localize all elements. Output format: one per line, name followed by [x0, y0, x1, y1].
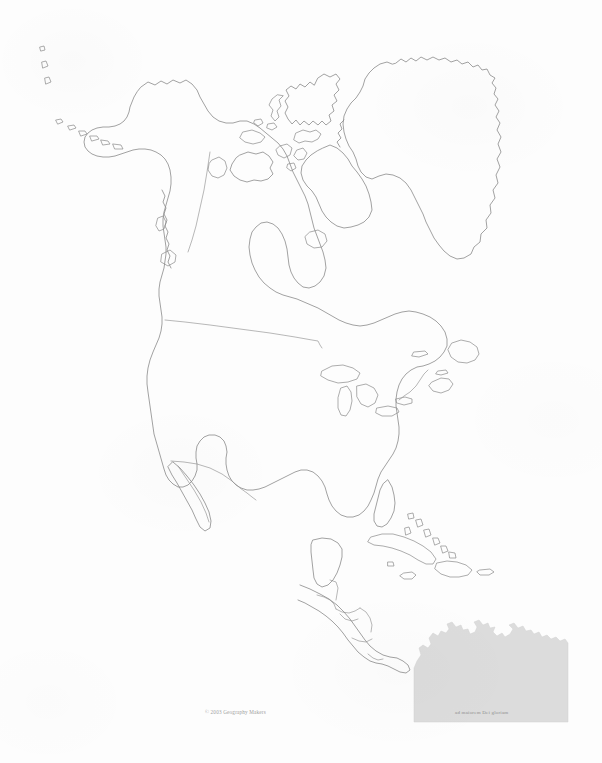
- aleutian-islet-6: [113, 144, 123, 149]
- hispaniola-outline: [435, 561, 472, 577]
- bahamas-islet-4: [424, 529, 431, 537]
- cuba-outline: [368, 534, 436, 564]
- lake-ontario-outline: [396, 397, 412, 405]
- florida-peninsula-outline: [374, 480, 395, 527]
- guatemala-belize-border: [330, 580, 338, 600]
- greenland-outline: [343, 57, 501, 259]
- nicaragua-costa-rica-border: [352, 638, 372, 642]
- aleutian-islet-5: [101, 140, 110, 145]
- aleutian-islands-group: [40, 46, 123, 149]
- north-america-map: [0, 0, 602, 763]
- aleutian-islet-9: [45, 77, 51, 84]
- us-canada-border-west: [165, 320, 322, 348]
- haida-gwaii-outline: [156, 216, 166, 231]
- victoria-island-outline: [230, 152, 273, 182]
- baja-california-outline: [168, 462, 211, 531]
- bahamas-islet-6: [441, 546, 448, 553]
- bahamas-islet-7: [449, 552, 456, 558]
- jamaica-outline: [400, 572, 416, 579]
- lake-michigan-outline: [338, 386, 352, 416]
- banks-island-outline: [208, 157, 227, 178]
- somerset-island-outline: [294, 148, 307, 160]
- guatemala-honduras-border: [336, 608, 360, 613]
- bahamas-islet-5: [433, 538, 440, 545]
- devon-island-outline: [294, 130, 321, 143]
- prince-edward-island-outline: [436, 370, 448, 375]
- south-america-shaded-region: [414, 620, 568, 722]
- aleutian-islet-3: [79, 131, 87, 136]
- bahamas-islet-1: [408, 513, 414, 519]
- melville-island-outline: [240, 130, 265, 144]
- aleutian-islet-2: [68, 125, 76, 130]
- aleutian-islet-7: [40, 46, 45, 51]
- aleutian-islet-1: [56, 119, 63, 124]
- us-canada-border-alaska: [188, 152, 210, 252]
- anticosti-island-outline: [412, 351, 428, 357]
- puerto-rico-outline: [477, 569, 494, 575]
- yucatan-peninsula-outline: [311, 538, 342, 587]
- honduras-nicaragua-border: [360, 608, 372, 632]
- us-mexico-border: [171, 461, 256, 500]
- baffin-island-outline: [301, 145, 372, 228]
- axel-heiberg-island-outline: [269, 95, 283, 121]
- arctic-islet-1: [267, 123, 277, 130]
- great-lakes-group: [321, 365, 412, 416]
- lake-superior-outline: [321, 365, 360, 383]
- cayman-islet: [388, 562, 394, 566]
- central-america-isthmus-outline: [298, 585, 410, 673]
- map-page: © 2003 Geography Makers ad maiorem Dei g…: [0, 0, 602, 763]
- north-america-mainland-outline: [84, 80, 447, 517]
- nova-scotia-outline: [429, 378, 453, 393]
- ellesmere-island-outline: [285, 74, 340, 125]
- costa-rica-panama-border: [368, 654, 383, 660]
- lake-huron-outline: [357, 384, 378, 407]
- newfoundland-outline: [448, 340, 479, 363]
- copyright-caption: © 2003 Geography Makers: [205, 709, 266, 715]
- aleutian-islet-4: [90, 136, 99, 141]
- caribbean-islands-group: [368, 513, 494, 579]
- bahamas-islet-3: [405, 527, 411, 535]
- us-canada-border-east: [399, 370, 428, 400]
- watermark-caption: ad maiorem Dei gloriam: [455, 710, 508, 715]
- aleutian-islet-8: [42, 61, 48, 68]
- lake-erie-outline: [376, 406, 399, 416]
- bahamas-islet-2: [416, 519, 423, 527]
